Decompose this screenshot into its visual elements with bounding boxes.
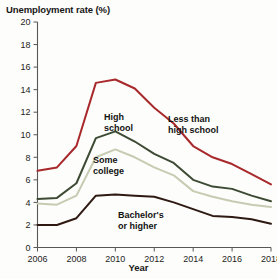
series-label-high-school: High school (104, 112, 133, 134)
y-axis: 02468101214161820 (20, 17, 37, 253)
series-label-bachelors-or-higher: Bachelor's or higher (118, 210, 164, 232)
y-tick-label: 8 (25, 153, 30, 163)
y-tick-label: 20 (20, 17, 30, 27)
y-tick-label: 14 (20, 85, 30, 95)
series-lines (38, 80, 272, 225)
line-chart-plot: 02468101214161820 2006200820102012201420… (0, 0, 277, 279)
chart-figure: Unemployment rate (%) 02468101214161820 … (0, 0, 277, 279)
series-line-some-college (38, 149, 272, 207)
series-line-less-than-high-school (38, 80, 272, 185)
y-tick-label: 16 (20, 62, 30, 72)
y-tick-label: 10 (20, 130, 30, 140)
y-tick-label: 0 (25, 243, 30, 253)
y-tick-label: 4 (25, 198, 30, 208)
x-axis-title: Year (0, 262, 277, 273)
y-tick-label: 2 (25, 220, 30, 230)
y-tick-label: 6 (25, 175, 30, 185)
y-tick-label: 18 (20, 40, 30, 50)
series-label-less-than-high-school: Less than high school (168, 114, 219, 136)
series-label-some-college: Some college (93, 155, 124, 177)
y-tick-label: 12 (20, 107, 30, 117)
